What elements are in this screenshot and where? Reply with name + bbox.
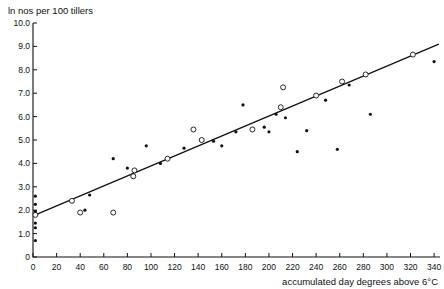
- data-point: [83, 209, 86, 212]
- data-point: [34, 239, 37, 242]
- data-point: [33, 212, 38, 217]
- data-point: [314, 93, 319, 98]
- x-axis-tick-labels: 0204060801001201401601802002202402602803…: [31, 262, 442, 272]
- x-axis-tick-label: 200: [262, 262, 276, 272]
- data-point: [69, 198, 74, 203]
- scatter-plot: ln nos per 100 tillers accumulated day d…: [0, 0, 444, 289]
- data-point: [131, 174, 136, 179]
- x-axis-tick-label: 80: [123, 262, 133, 272]
- x-axis-tick-label: 160: [215, 262, 229, 272]
- data-point: [182, 147, 185, 150]
- data-point: [363, 72, 368, 77]
- data-point: [284, 116, 287, 119]
- y-axis-tick-label: 4.0: [18, 158, 30, 168]
- data-point: [212, 140, 215, 143]
- data-point: [220, 144, 223, 147]
- data-point: [410, 52, 415, 57]
- x-axis-tick-label: 260: [333, 262, 347, 272]
- data-point: [241, 103, 244, 106]
- x-axis-tick-label: 280: [356, 262, 370, 272]
- data-point: [78, 210, 83, 215]
- y-axis-tick-label: 3.0: [18, 182, 30, 192]
- x-axis-tick-label: 240: [309, 262, 323, 272]
- data-point: [369, 113, 372, 116]
- data-point: [34, 221, 37, 224]
- data-series-filled-circles: [34, 60, 436, 242]
- x-axis-tick-label: 100: [144, 262, 158, 272]
- y-axis-tick-label: 8.0: [18, 65, 30, 75]
- data-point: [34, 226, 37, 229]
- y-axis-tick-label: 6.0: [18, 112, 30, 122]
- data-point: [234, 130, 237, 133]
- data-point: [191, 127, 196, 132]
- data-point: [34, 195, 37, 198]
- data-point: [274, 113, 277, 116]
- data-point: [145, 144, 148, 147]
- x-axis-tick-label: 60: [99, 262, 109, 272]
- x-axis-tick-label: 340: [427, 262, 441, 272]
- y-axis-tick-label: 1.0: [18, 229, 30, 239]
- y-axis-tick-label: 10.0: [13, 18, 30, 28]
- data-point: [250, 127, 255, 132]
- y-axis-tick-label: 7.0: [18, 88, 30, 98]
- data-point: [348, 83, 351, 86]
- data-point: [267, 130, 270, 133]
- y-axis-tick-label: 9.0: [18, 41, 30, 51]
- y-axis-tick-label: 5.0: [18, 135, 30, 145]
- x-axis-tick-label: 20: [52, 262, 62, 272]
- x-axis-tick-label: 180: [238, 262, 252, 272]
- x-axis-tick-label: 40: [75, 262, 85, 272]
- x-axis-tick-label: 0: [31, 262, 36, 272]
- data-point: [34, 210, 37, 213]
- data-point: [112, 157, 115, 160]
- data-point: [199, 138, 204, 143]
- x-axis-ticks: [33, 253, 434, 257]
- x-axis-tick-label: 320: [403, 262, 417, 272]
- regression-line: [35, 44, 438, 215]
- data-point: [34, 203, 37, 206]
- data-point: [305, 129, 308, 132]
- data-point: [336, 148, 339, 151]
- data-point: [88, 193, 91, 196]
- data-point: [263, 126, 266, 129]
- x-axis-tick-label: 300: [380, 262, 394, 272]
- x-axis-title: accumulated day degrees above 6°C: [282, 276, 438, 287]
- data-point: [433, 60, 436, 63]
- data-point: [296, 150, 299, 153]
- data-point: [165, 156, 170, 161]
- data-point: [132, 168, 137, 173]
- chart-container: ln nos per 100 tillers accumulated day d…: [0, 0, 444, 289]
- y-axis-tick-label: 0: [25, 252, 30, 262]
- data-point: [340, 79, 345, 84]
- x-axis-tick-label: 140: [191, 262, 205, 272]
- x-axis-tick-label: 120: [167, 262, 181, 272]
- x-axis-tick-label: 220: [285, 262, 299, 272]
- plot-axes: [33, 23, 440, 257]
- y-axis-tick-label: 2.0: [18, 205, 30, 215]
- y-axis-title: ln nos per 100 tillers: [8, 5, 93, 16]
- data-point: [281, 85, 286, 90]
- data-point: [111, 210, 116, 215]
- data-point: [126, 166, 129, 169]
- data-point: [278, 105, 283, 110]
- data-point: [159, 162, 162, 165]
- data-point: [324, 99, 327, 102]
- y-axis-tick-labels: 01.02.03.04.05.06.07.08.09.010.0: [13, 18, 30, 262]
